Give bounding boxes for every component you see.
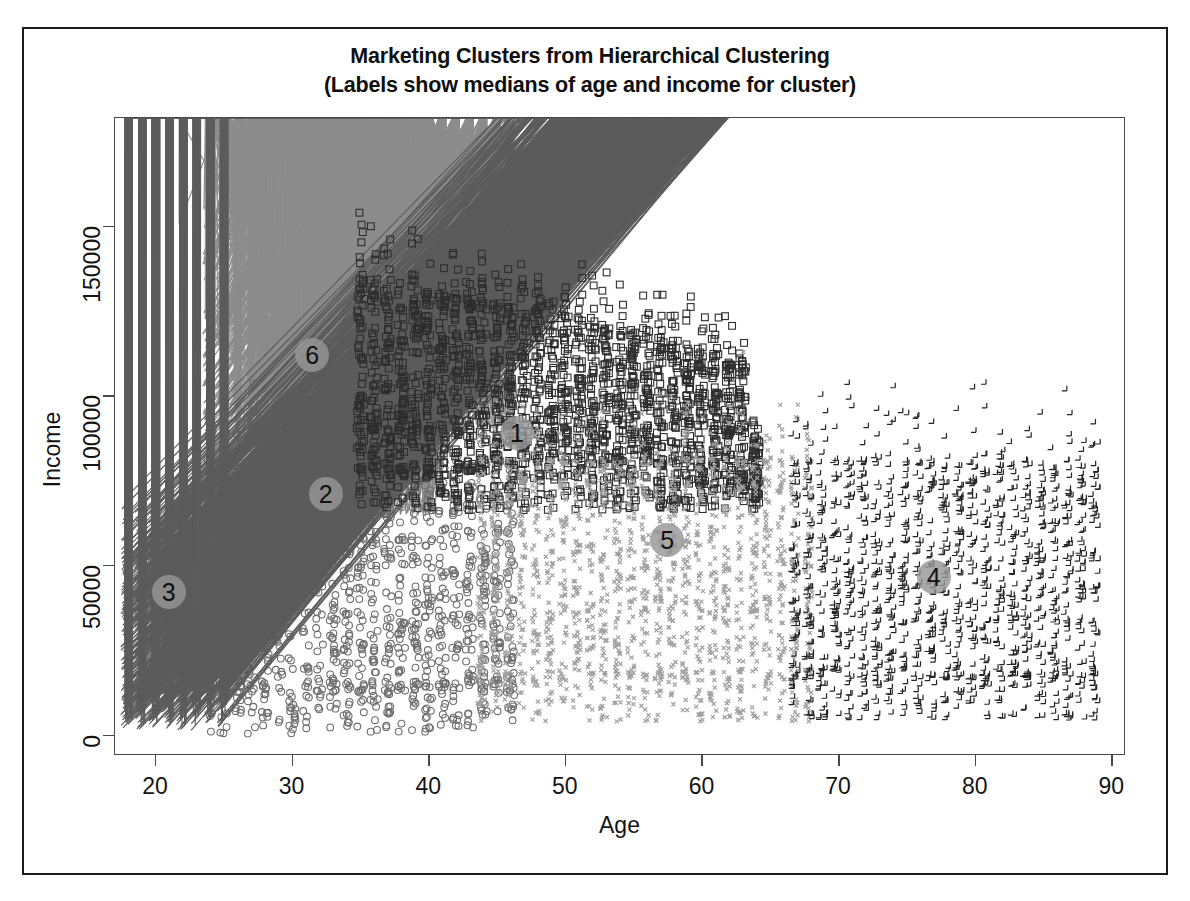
x-tick-mark xyxy=(1111,755,1113,766)
x-tick-label: 30 xyxy=(279,773,305,800)
scatter-points-layer xyxy=(115,118,1124,754)
chart-title-line-1: Marketing Clusters from Hierarchical Clu… xyxy=(350,44,829,68)
x-tick-label: 40 xyxy=(415,773,441,800)
scatter-series-6 xyxy=(788,379,1100,720)
y-axis-title: Income xyxy=(39,390,66,510)
x-axis-title: Age xyxy=(114,812,1125,839)
x-tick-mark xyxy=(701,755,703,766)
x-tick-mark xyxy=(975,755,977,766)
x-tick-mark xyxy=(565,755,567,766)
x-tick-label: 20 xyxy=(142,773,168,800)
x-tick-label: 70 xyxy=(825,773,851,800)
cluster-label-5: 5 xyxy=(650,523,684,557)
figure-page: Marketing Clusters from Hierarchical Clu… xyxy=(0,0,1190,901)
y-tick-label: 100000 xyxy=(79,395,106,472)
y-tick-label: 0 xyxy=(79,735,106,748)
cluster-label-4: 4 xyxy=(917,560,951,594)
plot-area xyxy=(114,117,1125,755)
chart-title: Marketing Clusters from Hierarchical Clu… xyxy=(90,42,1090,100)
cluster-label-3: 3 xyxy=(152,575,186,609)
cluster-label-1: 1 xyxy=(500,416,534,450)
y-tick-label: 150000 xyxy=(79,226,106,303)
x-tick-mark xyxy=(292,755,294,766)
x-tick-label: 60 xyxy=(689,773,715,800)
cluster-label-6: 6 xyxy=(295,338,329,372)
x-tick-label: 80 xyxy=(962,773,988,800)
x-tick-label: 50 xyxy=(552,773,578,800)
chart-title-line-2: (Labels show medians of age and income f… xyxy=(90,71,1090,100)
x-tick-mark xyxy=(428,755,430,766)
x-tick-label: 90 xyxy=(1099,773,1125,800)
y-tick-label: 50000 xyxy=(79,565,106,629)
x-tick-mark xyxy=(838,755,840,766)
x-tick-mark xyxy=(155,755,157,766)
cluster-label-2: 2 xyxy=(309,477,343,511)
scatter-figure: Marketing Clusters from Hierarchical Clu… xyxy=(0,0,1190,901)
